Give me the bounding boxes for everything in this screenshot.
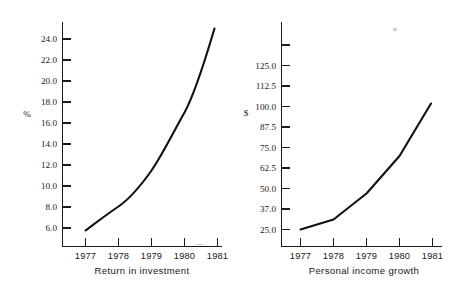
left-xtick-label: 1981 bbox=[207, 251, 228, 261]
right-ytick-label: 25.0 bbox=[260, 225, 276, 235]
right-x-ticks bbox=[301, 238, 433, 247]
left-ytick-label: 18.0 bbox=[41, 97, 57, 107]
left-ytick-label: 8.0 bbox=[46, 202, 58, 212]
right-ytick-label: 50.0 bbox=[260, 184, 276, 194]
chart-panel-personal-income-growth: 125.0 112.5 100.0 87.5 75.0 62.5 50.0 37… bbox=[230, 0, 461, 290]
left-ytick-label: 14.0 bbox=[41, 139, 57, 149]
right-ytick-label: 100.0 bbox=[255, 102, 276, 112]
right-xtick-label: 1978 bbox=[323, 251, 344, 261]
left-chart-svg: 24.0 22.0 20.0 18.0 16.0 14.0 12.0 10.0 … bbox=[0, 0, 230, 290]
left-xtick-label: 1979 bbox=[141, 251, 162, 261]
chart-panel-return-in-investment: 24.0 22.0 20.0 18.0 16.0 14.0 12.0 10.0 … bbox=[0, 0, 230, 290]
scan-artifact bbox=[393, 28, 397, 31]
right-ytick-label: 62.5 bbox=[260, 163, 276, 173]
right-xtick-label: 1979 bbox=[356, 251, 377, 261]
left-y-ticks bbox=[63, 39, 72, 228]
right-ytick-label: 87.5 bbox=[260, 122, 276, 132]
left-xtick-label: 1980 bbox=[174, 251, 195, 261]
left-ytick-label: 20.0 bbox=[41, 76, 57, 86]
left-ytick-label: 6.0 bbox=[46, 223, 58, 233]
left-data-line bbox=[86, 29, 215, 231]
right-xtick-label: 1981 bbox=[422, 251, 443, 261]
right-ytick-label: 37.0 bbox=[260, 204, 276, 214]
right-ytick-label: 75.0 bbox=[260, 143, 276, 153]
right-ytick-label: 125.0 bbox=[255, 61, 276, 71]
left-xtick-label: 1978 bbox=[108, 251, 129, 261]
left-ytick-label: 12.0 bbox=[41, 160, 57, 170]
left-y-axis-title: % bbox=[23, 109, 31, 119]
left-ytick-label: 24.0 bbox=[41, 34, 57, 44]
right-y-ticks bbox=[282, 45, 291, 230]
figure-two-line-charts: 24.0 22.0 20.0 18.0 16.0 14.0 12.0 10.0 … bbox=[0, 0, 461, 290]
right-y-axis-title: $ bbox=[244, 108, 249, 118]
left-x-ticks bbox=[86, 238, 218, 247]
left-ytick-label: 22.0 bbox=[41, 55, 57, 65]
right-xtick-label: 1977 bbox=[290, 251, 311, 261]
scan-artifact bbox=[196, 244, 203, 245]
right-chart-svg: 125.0 112.5 100.0 87.5 75.0 62.5 50.0 37… bbox=[230, 0, 461, 290]
left-chart-caption: Return in investment bbox=[95, 265, 190, 276]
left-xtick-label: 1977 bbox=[75, 251, 96, 261]
left-ytick-label: 16.0 bbox=[41, 118, 57, 128]
left-ytick-label: 10.0 bbox=[41, 181, 57, 191]
right-chart-caption: Personal income growth bbox=[309, 265, 420, 276]
right-ytick-label: 112.5 bbox=[256, 81, 277, 91]
right-data-line bbox=[301, 104, 432, 230]
right-xtick-label: 1980 bbox=[389, 251, 410, 261]
